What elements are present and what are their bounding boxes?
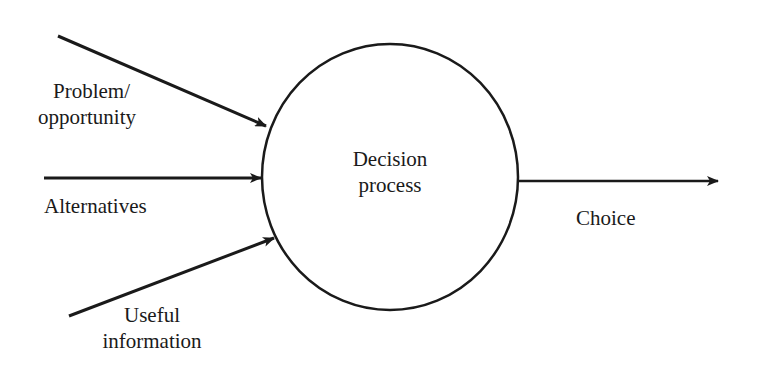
alternatives-label: Alternatives — [44, 193, 147, 219]
problem-opportunity-label: Problem/ opportunity — [38, 78, 136, 130]
choice-label: Choice — [576, 205, 635, 231]
decision-process-label: Decision process — [320, 146, 460, 198]
useful-information-label: Useful information — [82, 302, 222, 354]
